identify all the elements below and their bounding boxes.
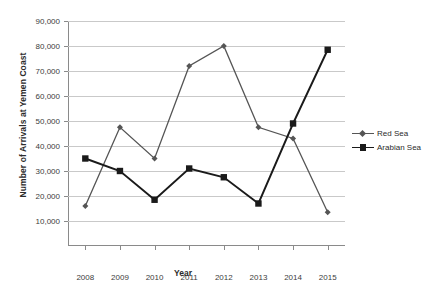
diamond-marker-icon <box>352 128 374 138</box>
x-tick-mark <box>189 246 190 250</box>
data-point-marker <box>117 168 123 174</box>
y-tick-label: 40,000 <box>8 142 60 151</box>
x-axis-title: Year <box>174 268 192 278</box>
chart-container: Number of Arrivals at Yemen Coast 10,000… <box>0 0 426 286</box>
y-tick-label: 20,000 <box>8 192 60 201</box>
x-tick-mark <box>155 246 156 250</box>
data-point-marker <box>255 200 261 206</box>
y-tick-label: 90,000 <box>8 17 60 26</box>
x-tick-mark <box>120 246 121 250</box>
legend-item-red-sea[interactable]: Red Sea <box>352 126 421 140</box>
series-layer <box>68 21 345 246</box>
data-point-marker <box>255 124 261 130</box>
x-tick-mark <box>293 246 294 250</box>
data-point-marker <box>324 47 330 53</box>
x-tick-mark <box>224 246 225 250</box>
y-axis-tick-labels: 10,00020,00030,00040,00050,00060,00070,0… <box>8 0 60 286</box>
data-point-marker <box>290 120 296 126</box>
x-tick-mark <box>328 246 329 250</box>
y-tick-label: 60,000 <box>8 92 60 101</box>
data-point-marker <box>82 203 88 209</box>
chart-legend: Red SeaArabian Sea <box>352 126 421 154</box>
legend-label: Arabian Sea <box>377 143 421 152</box>
y-tick-label: 70,000 <box>8 67 60 76</box>
x-axis-title-wrap: Year <box>0 268 426 278</box>
x-tick-mark <box>85 246 86 250</box>
data-point-marker <box>151 197 157 203</box>
square-marker-icon <box>352 142 374 152</box>
y-tick-label: 80,000 <box>8 42 60 51</box>
data-point-marker <box>82 155 88 161</box>
data-point-marker <box>186 63 192 69</box>
x-tick-mark <box>258 246 259 250</box>
legend-item-arabian-sea[interactable]: Arabian Sea <box>352 140 421 154</box>
data-point-marker <box>325 209 331 215</box>
y-tick-label: 50,000 <box>8 117 60 126</box>
legend-label: Red Sea <box>377 129 408 138</box>
data-point-marker <box>221 174 227 180</box>
plot-area: 20082009201020112012201320142015 <box>68 21 345 246</box>
data-point-marker <box>221 43 227 49</box>
data-point-marker <box>290 136 296 142</box>
data-point-marker <box>186 165 192 171</box>
y-tick-label: 10,000 <box>8 217 60 226</box>
y-tick-label: 30,000 <box>8 167 60 176</box>
